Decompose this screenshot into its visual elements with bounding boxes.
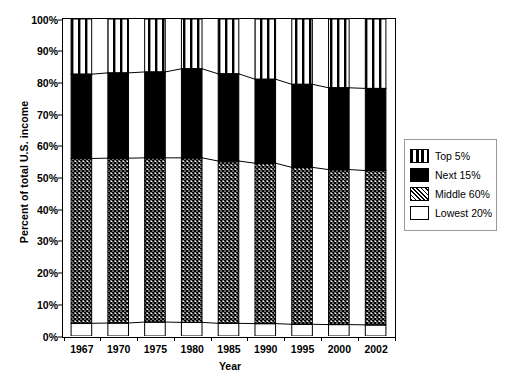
x-tick-label: 1985	[217, 343, 240, 355]
x-tick-mark	[358, 337, 359, 341]
band-top-5	[292, 19, 313, 84]
legend-label: Middle 60%	[435, 188, 490, 200]
band-next-15	[218, 74, 239, 161]
band-top-5	[145, 19, 166, 72]
x-tick-label: 1995	[291, 343, 314, 355]
band-next-15	[255, 79, 276, 163]
band-middle-60	[108, 158, 129, 323]
x-tick-mark	[321, 337, 322, 341]
legend-item: Next 15%	[410, 165, 491, 184]
band-lowest-20	[292, 324, 313, 336]
band-lowest-20	[218, 323, 239, 336]
x-tick-label: 1980	[181, 343, 204, 355]
x-tick-mark	[284, 337, 285, 341]
band-lowest-20	[329, 325, 350, 336]
legend-label: Lowest 20%	[435, 207, 492, 219]
band-middle-60	[181, 158, 202, 323]
stacked-area-svg	[63, 19, 394, 336]
y-tick-label: 10%	[16, 299, 58, 311]
band-next-15	[292, 84, 313, 167]
y-tick-label: 90%	[16, 45, 58, 57]
band-lowest-20	[365, 325, 386, 336]
legend-item: Top 5%	[410, 146, 491, 165]
x-tick-label: 1990	[254, 343, 277, 355]
x-tick-label: 1975	[144, 343, 167, 355]
band-middle-60	[218, 161, 239, 323]
band-top-5	[181, 19, 202, 69]
band-lowest-20	[108, 323, 129, 336]
chart-legend: Top 5%Next 15%Middle 60%Lowest 20%	[404, 139, 497, 231]
legend-item: Middle 60%	[410, 184, 491, 203]
legend-swatch-solid-white	[410, 206, 429, 220]
y-tick-label: 0%	[16, 331, 58, 343]
band-top-5	[71, 19, 92, 74]
band-middle-60	[255, 163, 276, 323]
y-tick-label: 50%	[16, 172, 58, 184]
band-top-5	[255, 19, 276, 79]
band-next-15	[365, 88, 386, 170]
y-tick-label: 80%	[16, 77, 58, 89]
legend-label: Next 15%	[435, 169, 481, 181]
x-tick-label: 2002	[364, 343, 387, 355]
x-tick-label: 2000	[328, 343, 351, 355]
legend-swatch-solid-black	[410, 168, 429, 182]
x-tick-mark	[247, 337, 248, 341]
band-next-15	[145, 72, 166, 158]
band-next-15	[181, 69, 202, 158]
x-axis-title: Year	[0, 360, 460, 372]
x-tick-mark	[395, 337, 396, 341]
band-top-5	[365, 19, 386, 88]
x-tick-mark	[211, 337, 212, 341]
x-tick-mark	[137, 337, 138, 341]
legend-item: Lowest 20%	[410, 203, 491, 222]
band-next-15	[108, 73, 129, 158]
chart-figure: Percent of total U.S. income 0%10%20%30%…	[0, 0, 507, 380]
band-top-5	[218, 19, 239, 74]
band-top-5	[329, 19, 350, 88]
band-lowest-20	[255, 324, 276, 336]
y-tick-label: 70%	[16, 109, 58, 121]
x-tick-label: 1967	[70, 343, 93, 355]
band-middle-60	[71, 158, 92, 323]
band-lowest-20	[145, 322, 166, 336]
band-top-5	[108, 19, 129, 73]
plot-area	[62, 18, 396, 338]
band-middle-60	[292, 167, 313, 324]
legend-swatch-vertical-stripes	[410, 149, 429, 163]
band-lowest-20	[181, 322, 202, 336]
y-tick-label: 60%	[16, 140, 58, 152]
y-tick-label: 100%	[16, 14, 58, 26]
band-middle-60	[329, 170, 350, 325]
y-tick-label: 40%	[16, 204, 58, 216]
x-tick-label: 1970	[107, 343, 130, 355]
x-tick-mark	[100, 337, 101, 341]
band-next-15	[329, 88, 350, 170]
legend-label: Top 5%	[435, 150, 470, 162]
band-middle-60	[365, 171, 386, 325]
x-tick-mark	[64, 337, 65, 341]
band-next-15	[71, 74, 92, 158]
y-tick-label: 30%	[16, 235, 58, 247]
y-axis-ticks: 0%10%20%30%40%50%60%70%80%90%100%	[12, 0, 58, 380]
band-lowest-20	[71, 323, 92, 336]
legend-swatch-crosshatch	[410, 187, 429, 201]
x-tick-mark	[174, 337, 175, 341]
band-middle-60	[145, 158, 166, 322]
y-tick-label: 20%	[16, 267, 58, 279]
